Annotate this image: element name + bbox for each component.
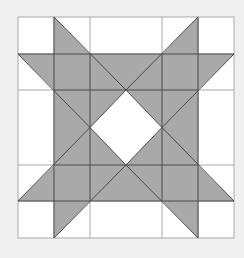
quilt-diagram [0,0,244,258]
